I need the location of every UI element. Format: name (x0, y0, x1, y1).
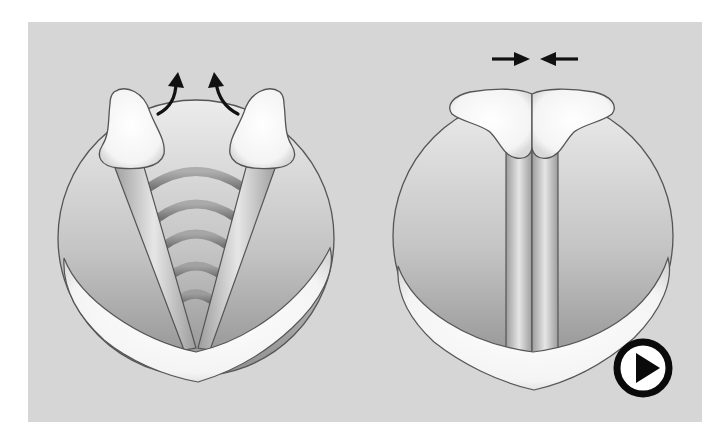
play-button[interactable] (617, 342, 669, 394)
left-vocal-fold-closed (506, 150, 532, 358)
vocal-fold-diagram (0, 0, 728, 443)
figure-stage (0, 0, 728, 443)
right-vocal-fold-closed (532, 150, 558, 358)
